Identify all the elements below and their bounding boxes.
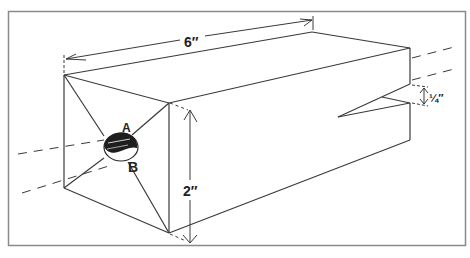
height-dimension xyxy=(170,103,197,243)
trajectory-lines xyxy=(18,46,458,193)
notch-dimension xyxy=(412,85,428,106)
point-b-label: B xyxy=(128,159,138,175)
length-label: 6″ xyxy=(184,34,199,50)
point-a-label: A xyxy=(122,121,131,135)
ball xyxy=(104,133,138,161)
height-label: 2″ xyxy=(183,183,198,199)
wedge-notch xyxy=(338,84,410,117)
diagram-canvas: 6″ 2″ ¼″ A B xyxy=(0,0,470,258)
box-outline xyxy=(64,32,410,233)
diagram-frame xyxy=(9,12,466,246)
notch-label: ¼″ xyxy=(429,92,444,104)
